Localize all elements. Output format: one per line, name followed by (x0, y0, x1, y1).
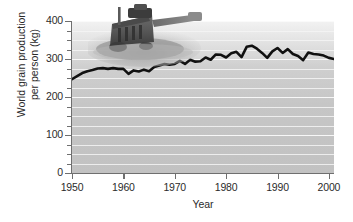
y-tick-minor (67, 116, 72, 117)
y-tick-minor (67, 145, 72, 146)
data-series-line (72, 21, 334, 173)
y-tick-minor (67, 88, 72, 89)
x-axis-label: Year (72, 198, 334, 210)
y-tick-minor (67, 164, 72, 165)
plot-area (72, 21, 334, 173)
y-axis-label-line2: per person (kg) (27, 0, 40, 140)
x-tick (226, 173, 227, 179)
y-tick-minor (67, 50, 72, 51)
x-tick (175, 173, 176, 179)
y-tick (65, 97, 72, 98)
x-tick (72, 173, 73, 179)
y-tick-minor (67, 107, 72, 108)
x-tick-label: 1970 (153, 181, 197, 193)
x-tick (123, 173, 124, 179)
y-axis-label-line1: World grain production (15, 0, 28, 140)
x-axis-line (71, 173, 334, 174)
y-tick-label: 0 (23, 166, 63, 178)
x-tick (278, 173, 279, 179)
chart-figure: 0100200300400 195019601970198019902000 Y… (0, 0, 353, 222)
x-tick-label: 1950 (50, 181, 94, 193)
x-tick-label: 1990 (256, 181, 300, 193)
y-tick (65, 135, 72, 136)
y-tick (65, 21, 72, 22)
y-tick-minor (67, 126, 72, 127)
y-axis-label: World grain production per person (kg) (15, 0, 40, 140)
y-tick-minor (67, 40, 72, 41)
x-tick-label: 1960 (101, 181, 145, 193)
y-tick-minor (67, 31, 72, 32)
x-tick-label: 2000 (307, 181, 351, 193)
x-tick-label: 1980 (204, 181, 248, 193)
y-tick-minor (67, 78, 72, 79)
y-tick (65, 173, 72, 174)
y-tick-minor (67, 69, 72, 70)
x-tick (329, 173, 330, 179)
y-tick (65, 59, 72, 60)
y-tick-minor (67, 154, 72, 155)
